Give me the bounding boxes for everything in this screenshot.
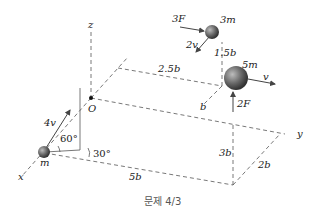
y-axis-label: y [296, 128, 303, 139]
angle-60-label: 60° [60, 133, 78, 144]
force-3F-label: 3F [172, 13, 186, 24]
velocity-2v-label: 2v [185, 39, 198, 50]
mass-5m-label: 5m [242, 59, 258, 70]
dim-2b-label: 2b [257, 159, 271, 170]
mass-3m [205, 25, 219, 39]
dim-b-label: b [200, 101, 206, 112]
physics-diagram: z O x y m 4v 60° 30° 3m 3F 2v 1.5b 5m v … [0, 0, 317, 221]
z-axis-label: z [87, 19, 94, 30]
origin-dot [89, 96, 93, 100]
velocity-v-label: v [263, 71, 269, 82]
figure-caption: 문제 4/3 [144, 196, 181, 207]
mass-m-label: m [40, 157, 49, 168]
angle-30-label: 30° [93, 148, 111, 159]
height-1.5b-label: 1.5b [214, 47, 236, 58]
origin-label: O [88, 103, 96, 114]
force-2F-label: 2F [236, 98, 251, 109]
x-axis-label: x [18, 171, 24, 182]
dim-3b-label: 3b [219, 147, 232, 158]
velocity-4v-label: 4v [43, 117, 56, 128]
mass-3m-label: 3m [220, 14, 236, 25]
dim-5b-label: 5b [129, 171, 142, 182]
dim-2.5b-label: 2.5b [157, 63, 180, 74]
